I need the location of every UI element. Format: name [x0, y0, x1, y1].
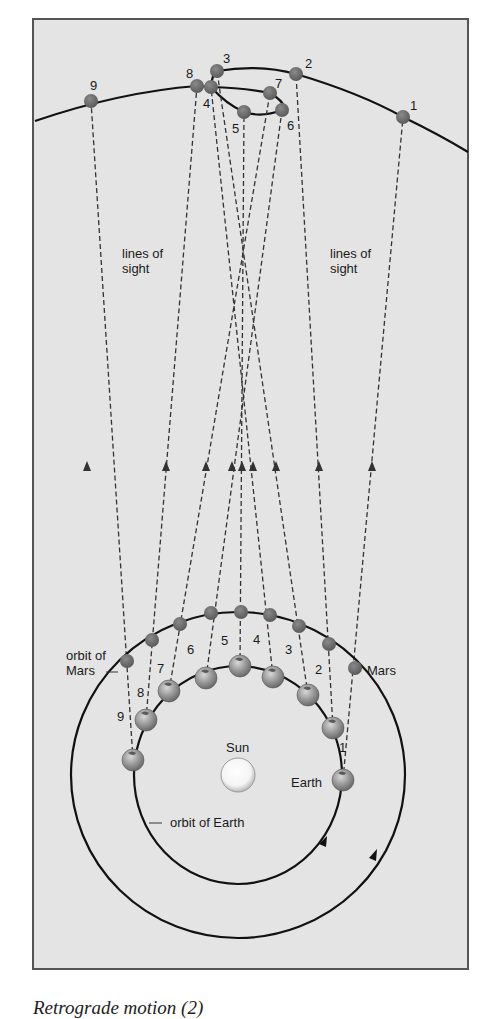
mars-position-9: [120, 654, 134, 668]
mars-position-1: [348, 661, 362, 675]
earth-label-6: 6: [187, 642, 194, 657]
apparent-label-3: 3: [223, 51, 230, 66]
apparent-position-3: [210, 64, 224, 78]
apparent-position-5: [237, 105, 251, 119]
apparent-label-1: 1: [410, 98, 417, 113]
apparent-position-1: [396, 110, 410, 124]
apparent-position-6: [275, 103, 289, 117]
orbit-of-mars-label-line2: Mars: [66, 663, 95, 678]
apparent-label-5: 5: [232, 121, 239, 136]
mars-position-2: [322, 637, 336, 651]
apparent-label-8: 8: [186, 66, 193, 81]
earth-label-5: 5: [221, 633, 228, 648]
mars-position-5: [234, 605, 248, 619]
sun-label: Sun: [226, 740, 249, 755]
apparent-label-2: 2: [305, 56, 312, 71]
figure-caption: Retrograde motion (2): [33, 997, 203, 1019]
mars-position-4: [263, 608, 277, 622]
earth-label-4: 4: [253, 632, 260, 647]
lines-of-sight-left-line2: sight: [122, 261, 150, 276]
apparent-position-4: [204, 80, 218, 94]
orbit-of-mars-label-line1: orbit of: [66, 648, 106, 663]
diagram-frame: [33, 19, 468, 969]
lines-of-sight-right-line2: sight: [330, 261, 358, 276]
apparent-position-8: [190, 79, 204, 93]
mars-position-3: [292, 619, 306, 633]
apparent-position-2: [289, 67, 303, 81]
mars-label: Mars: [367, 663, 396, 678]
earth-label-9: 9: [117, 709, 124, 724]
earth-label-1: 1: [339, 740, 346, 755]
mars-position-6: [204, 606, 218, 620]
apparent-label-6: 6: [287, 118, 294, 133]
lines-of-sight-left-line1: lines of: [122, 246, 164, 261]
mars-position-8: [145, 633, 159, 647]
mars-position-7: [173, 617, 187, 631]
apparent-label-9: 9: [90, 78, 97, 93]
apparent-label-4: 4: [203, 96, 210, 111]
earth-label: Earth: [291, 775, 322, 790]
orbit-of-earth-label: orbit of Earth: [170, 815, 244, 830]
earth-label-2: 2: [315, 662, 322, 677]
apparent-position-9: [84, 94, 98, 108]
earth-label-7: 7: [157, 661, 164, 676]
lines-of-sight-right-line1: lines of: [330, 246, 372, 261]
earth-label-3: 3: [285, 642, 292, 657]
earth-label-8: 8: [137, 685, 144, 700]
sun: [221, 758, 255, 792]
apparent-label-7: 7: [275, 76, 282, 91]
